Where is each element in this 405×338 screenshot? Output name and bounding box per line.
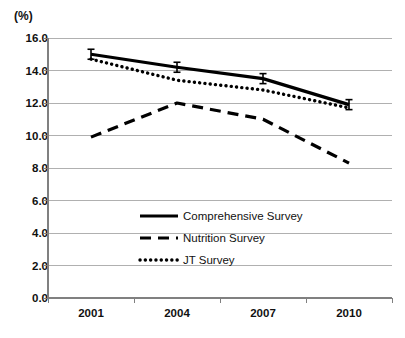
legend-label: Comprehensive Survey (183, 210, 303, 222)
legend-label: Nutrition Survey (183, 232, 265, 244)
chart-legend: Comprehensive SurveyNutrition SurveyJT S… (140, 210, 303, 266)
series-line (91, 59, 349, 108)
line-chart: (%) 0.02.04.06.08.010.012.014.016.0 2001… (0, 0, 405, 338)
data-series (88, 49, 353, 163)
series-line (91, 103, 349, 163)
legend-label: JT Survey (183, 254, 235, 266)
plot-area: Comprehensive SurveyNutrition SurveyJT S… (0, 0, 405, 338)
series-line (91, 54, 349, 104)
